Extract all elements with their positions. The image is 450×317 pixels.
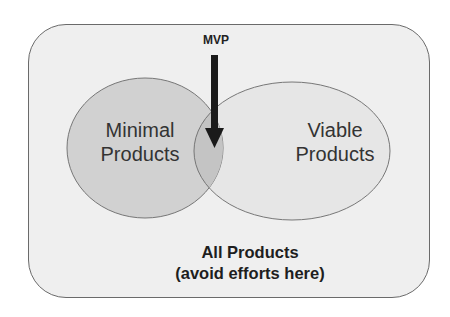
all-products-label: All Products (avoid efforts here) xyxy=(150,242,350,284)
all-label-line2: (avoid efforts here) xyxy=(150,263,350,284)
minimal-label-line2: Products xyxy=(80,142,200,166)
minimal-products-label: Minimal Products xyxy=(80,118,200,166)
viable-label-line1: Viable xyxy=(280,118,390,142)
viable-label-line2: Products xyxy=(280,142,390,166)
all-label-line1: All Products xyxy=(150,242,350,263)
minimal-label-line1: Minimal xyxy=(80,118,200,142)
mvp-label: MVP xyxy=(195,33,237,47)
viable-products-label: Viable Products xyxy=(280,118,390,166)
